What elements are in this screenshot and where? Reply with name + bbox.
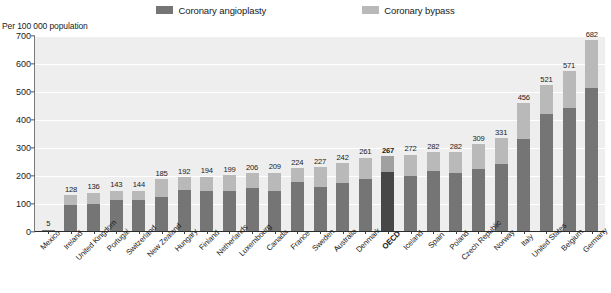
x-axis-label-cell[interactable]: Hungary bbox=[172, 236, 195, 293]
bar-value-label: 185 bbox=[155, 169, 167, 178]
x-axis-label-cell[interactable]: Luxembourg bbox=[240, 236, 263, 293]
bar-group[interactable]: 144 bbox=[128, 36, 151, 231]
x-axis-label-cell[interactable]: Germany bbox=[581, 236, 604, 293]
bar-value-label: 571 bbox=[563, 61, 575, 70]
x-axis-label-cell[interactable]: Finland bbox=[195, 236, 218, 293]
bar-segment-angioplasty bbox=[87, 204, 100, 231]
x-axis-label-cell[interactable]: Iceland bbox=[399, 236, 422, 293]
stacked-bar[interactable]: 128 bbox=[64, 195, 77, 231]
bar-value-label: 194 bbox=[201, 166, 213, 175]
bar-group[interactable]: 261 bbox=[354, 36, 377, 231]
stacked-bar[interactable]: 192 bbox=[178, 177, 191, 231]
stacked-bar[interactable]: 227 bbox=[314, 167, 327, 231]
x-tick-mark bbox=[433, 231, 434, 234]
x-axis-label-cell[interactable]: New Zealand bbox=[149, 236, 172, 293]
bar-group[interactable]: 267 bbox=[377, 36, 400, 231]
stacked-bar[interactable]: 272 bbox=[404, 155, 417, 231]
x-axis-label-cell[interactable]: Switzerland bbox=[127, 236, 150, 293]
stacked-bar[interactable]: 209 bbox=[268, 172, 281, 231]
bar-group[interactable]: 224 bbox=[286, 36, 309, 231]
x-axis-label-cell[interactable]: Poland bbox=[444, 236, 467, 293]
x-axis-label-cell[interactable]: OECD bbox=[376, 236, 399, 293]
bar-group[interactable]: 682 bbox=[580, 36, 603, 231]
x-axis-label-cell[interactable]: Portugal bbox=[104, 236, 127, 293]
x-tick-mark bbox=[162, 231, 163, 234]
bar-group[interactable]: 185 bbox=[150, 36, 173, 231]
bar-segment-angioplasty bbox=[472, 169, 485, 231]
legend-item-angioplasty[interactable]: Coronary angioplasty bbox=[156, 5, 266, 16]
stacked-bar[interactable]: 267 bbox=[381, 156, 394, 231]
bar-value-label: 206 bbox=[246, 163, 258, 172]
bar-group[interactable]: 206 bbox=[241, 36, 264, 231]
stacked-bar[interactable]: 194 bbox=[200, 177, 213, 231]
bar-segment-bypass bbox=[64, 195, 77, 205]
bar-group[interactable]: 192 bbox=[173, 36, 196, 231]
stacked-bar[interactable]: 199 bbox=[223, 175, 236, 231]
x-axis-label-cell[interactable]: Norway bbox=[490, 236, 513, 293]
x-axis-label-cell[interactable]: France bbox=[286, 236, 309, 293]
stacked-bar[interactable]: 682 bbox=[585, 40, 598, 231]
bar-group[interactable]: 5 bbox=[37, 36, 60, 231]
bar-segment-angioplasty bbox=[64, 205, 77, 231]
x-tick-mark bbox=[456, 231, 457, 234]
bar-segment-bypass bbox=[585, 40, 598, 88]
bar-value-label: 682 bbox=[586, 30, 598, 39]
x-axis-label-cell[interactable]: Australia bbox=[331, 236, 354, 293]
bar-group[interactable]: 272 bbox=[399, 36, 422, 231]
stacked-bar[interactable]: 309 bbox=[472, 144, 485, 231]
x-axis-label-cell[interactable]: United Kingdom bbox=[81, 236, 104, 293]
bar-group[interactable]: 282 bbox=[422, 36, 445, 231]
stacked-bar[interactable]: 456 bbox=[517, 103, 530, 231]
x-tick-mark bbox=[252, 231, 253, 234]
bar-segment-angioplasty bbox=[427, 171, 440, 231]
stacked-bar[interactable]: 185 bbox=[155, 179, 168, 231]
stacked-bar[interactable]: 282 bbox=[427, 152, 440, 231]
chart-legend: Coronary angioplasty Coronary bypass bbox=[0, 0, 611, 20]
x-axis-label-cell[interactable]: Denmark bbox=[354, 236, 377, 293]
x-axis-label-cell[interactable]: Canada bbox=[263, 236, 286, 293]
legend-item-bypass[interactable]: Coronary bypass bbox=[362, 5, 454, 16]
bar-group[interactable]: 331 bbox=[490, 36, 513, 231]
stacked-bar[interactable]: 242 bbox=[336, 163, 349, 231]
bar-group[interactable]: 227 bbox=[309, 36, 332, 231]
x-axis-label-cell[interactable]: Netherlands bbox=[218, 236, 241, 293]
bar-group[interactable]: 209 bbox=[263, 36, 286, 231]
x-axis-label-cell[interactable]: Czech Republic bbox=[467, 236, 490, 293]
stacked-bar[interactable]: 282 bbox=[449, 152, 462, 231]
bar-group[interactable]: 521 bbox=[535, 36, 558, 231]
stacked-bar[interactable]: 571 bbox=[563, 71, 576, 231]
bar-value-label: 144 bbox=[133, 180, 145, 189]
x-axis-label-cell[interactable]: Mexico bbox=[36, 236, 59, 293]
bar-group[interactable]: 128 bbox=[60, 36, 83, 231]
bar-value-label: 209 bbox=[269, 162, 281, 171]
bar-group[interactable]: 136 bbox=[82, 36, 105, 231]
bar-group[interactable]: 309 bbox=[467, 36, 490, 231]
x-axis-label-cell[interactable]: Belgium bbox=[558, 236, 581, 293]
bar-group[interactable]: 242 bbox=[331, 36, 354, 231]
x-axis-label-cell[interactable]: Italy bbox=[512, 236, 535, 293]
stacked-bar[interactable]: 136 bbox=[87, 193, 100, 231]
x-tick-mark bbox=[388, 231, 389, 234]
y-tick-label-400: 400 bbox=[16, 115, 31, 125]
stacked-bar[interactable]: 261 bbox=[359, 158, 372, 231]
bar-group[interactable]: 194 bbox=[195, 36, 218, 231]
x-axis-label-cell[interactable]: Spain bbox=[422, 236, 445, 293]
bar-group[interactable]: 143 bbox=[105, 36, 128, 231]
x-tick-mark bbox=[546, 231, 547, 234]
stacked-bar[interactable]: 144 bbox=[132, 191, 145, 231]
bar-segment-bypass bbox=[449, 152, 462, 173]
stacked-bar[interactable]: 224 bbox=[291, 168, 304, 231]
bar-group[interactable]: 282 bbox=[445, 36, 468, 231]
x-axis-label-cell[interactable]: Sweden bbox=[308, 236, 331, 293]
y-axis-title: Per 100 000 population bbox=[2, 21, 88, 31]
stacked-bar[interactable]: 206 bbox=[246, 173, 259, 231]
bar-value-label: 143 bbox=[110, 180, 122, 189]
x-tick-mark bbox=[569, 231, 570, 234]
x-axis-label-cell[interactable]: United States bbox=[535, 236, 558, 293]
stacked-bar[interactable]: 521 bbox=[540, 85, 553, 231]
x-axis-label-cell[interactable]: Ireland bbox=[59, 236, 82, 293]
bar-group[interactable]: 571 bbox=[558, 36, 581, 231]
bar-group[interactable]: 456 bbox=[512, 36, 535, 231]
bar-segment-bypass bbox=[178, 177, 191, 190]
bar-group[interactable]: 199 bbox=[218, 36, 241, 231]
